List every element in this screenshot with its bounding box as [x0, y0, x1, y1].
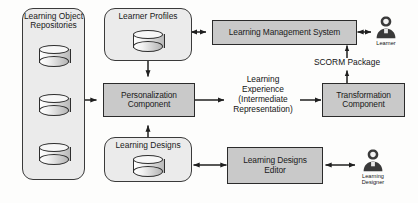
actor-learner[interactable]: Learner	[367, 13, 405, 46]
node-learning-object-repositories[interactable]: Learning Object Repositories	[22, 8, 85, 180]
node-learning-designs[interactable]: Learning Designs	[104, 137, 192, 182]
node-learning-designs-editor[interactable]: Learning Designs Editor	[227, 147, 323, 184]
cylinder-group-repositories	[23, 31, 84, 179]
node-learning-designs-editor-label: Learning Designs Editor	[243, 156, 307, 175]
database-cylinder-icon	[39, 143, 69, 165]
cylinder-group-profiles	[105, 21, 191, 60]
database-cylinder-icon	[133, 30, 163, 52]
diagram-canvas: Learning Object Repositories Learner Pro…	[0, 0, 418, 203]
person-icon	[360, 146, 386, 172]
actor-learning-designer-caption: Learning Designer	[362, 173, 384, 186]
database-cylinder-icon	[39, 45, 69, 67]
person-icon	[373, 13, 399, 39]
database-cylinder-icon	[39, 94, 69, 116]
node-learner-profiles[interactable]: Learner Profiles	[104, 8, 192, 61]
node-transformation-component-label: Transformation Component	[336, 91, 391, 110]
node-personalization-component[interactable]: Personalization Component	[103, 83, 195, 117]
edge-label-learning-experience: Learning Experience (Intermediate Repres…	[224, 74, 302, 114]
actor-learning-designer[interactable]: Learning Designer	[352, 146, 394, 186]
actor-learner-caption: Learner	[376, 40, 395, 46]
node-personalization-component-label: Personalization Component	[121, 91, 177, 110]
database-cylinder-icon	[133, 155, 163, 177]
cylinder-group-designs	[105, 150, 191, 181]
node-learning-management-system-label: Learning Management System	[229, 28, 340, 37]
node-learning-designs-label: Learning Designs	[105, 141, 191, 150]
node-learning-management-system[interactable]: Learning Management System	[212, 20, 357, 45]
node-learner-profiles-label: Learner Profiles	[105, 12, 191, 21]
edge-label-scorm-package: SCORM Package	[297, 57, 397, 67]
node-learning-object-repositories-label: Learning Object Repositories	[23, 12, 84, 31]
node-transformation-component[interactable]: Transformation Component	[322, 83, 405, 117]
